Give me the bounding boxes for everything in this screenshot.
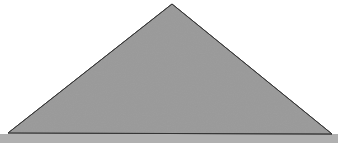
figure-canvas: agon p: [0, 0, 338, 143]
baseline-shadow-band: [0, 134, 338, 143]
triangle-figure-svg: [0, 0, 338, 143]
